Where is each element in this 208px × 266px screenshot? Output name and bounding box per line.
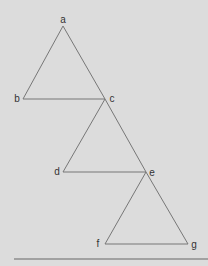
vertex-labels: abcdefg [14, 14, 197, 250]
edge-c-e [105, 99, 146, 172]
edge-e-g [146, 172, 188, 244]
edge-a-c [63, 26, 105, 99]
triangle-diagram: abcdefg [0, 0, 208, 266]
vertex-label-a: a [60, 14, 66, 25]
edge-a-b [23, 26, 63, 99]
edge-c-d [63, 99, 105, 172]
vertex-label-f: f [97, 238, 100, 249]
vertex-label-d: d [54, 166, 60, 177]
vertex-label-b: b [14, 93, 20, 104]
vertex-label-g: g [191, 239, 197, 250]
edge-e-f [105, 172, 146, 244]
edges [23, 26, 188, 244]
vertex-label-e: e [149, 167, 155, 178]
vertex-label-c: c [110, 93, 115, 104]
